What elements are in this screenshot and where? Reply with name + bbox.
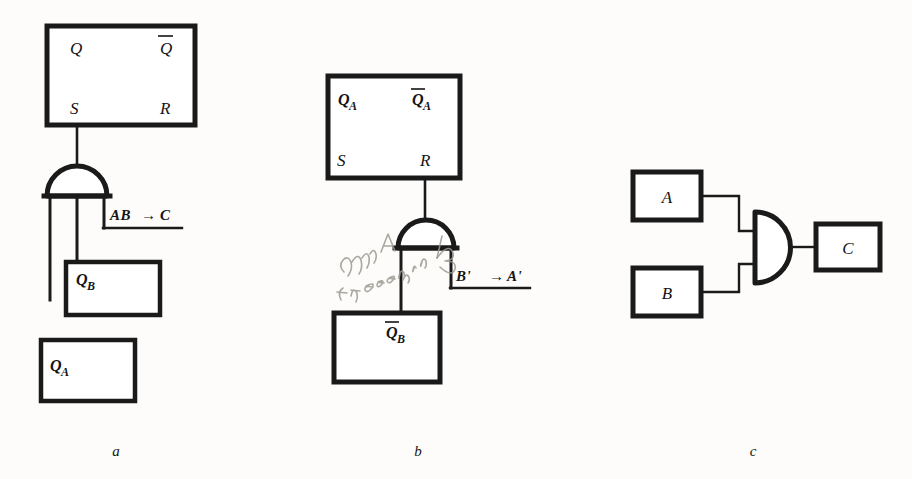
- panel-b-terminal-q-subscript: A: [348, 99, 357, 113]
- panel-a-box-qb-subscript: B: [86, 279, 95, 293]
- panel-c-box-a-label: A: [661, 188, 673, 207]
- figure-root: Q Q S R AB → C Q B Q A a Q A Q: [0, 0, 912, 479]
- panel-c-box-b-label: B: [662, 284, 673, 303]
- panel-a-box-qa-subscript: A: [60, 365, 69, 379]
- panel-a-output-target: C: [160, 207, 171, 223]
- panel-a-terminal-s: S: [70, 99, 79, 118]
- panel-b-caption: b: [414, 443, 422, 459]
- panel-c-caption: c: [750, 443, 757, 459]
- panel-a-caption: a: [112, 443, 120, 459]
- panel-a-terminal-r: R: [159, 99, 171, 118]
- panel-b-box-qb-not-subscript: B: [396, 332, 405, 346]
- panel-a-output-arrow-icon: →: [141, 207, 157, 223]
- panel-b-terminal-s: S: [337, 151, 346, 170]
- panel-c-box-c-label: C: [842, 239, 854, 258]
- panel-a-output-label: AB: [109, 207, 131, 223]
- panel-b-output-label: B': [455, 268, 471, 284]
- logic-diagram-figure: Q Q S R AB → C Q B Q A a Q A Q: [0, 0, 912, 479]
- panel-a-terminal-qnot: Q: [160, 39, 172, 58]
- panel-b-terminal-r: R: [419, 151, 431, 170]
- panel-a-terminal-q: Q: [70, 39, 82, 58]
- panel-b-output-target: A': [506, 268, 522, 284]
- panel-b-output-arrow-icon: →: [489, 268, 505, 284]
- panel-b-terminal-qnot-subscript: A: [422, 99, 431, 113]
- panel-a-box-qb: [66, 262, 160, 315]
